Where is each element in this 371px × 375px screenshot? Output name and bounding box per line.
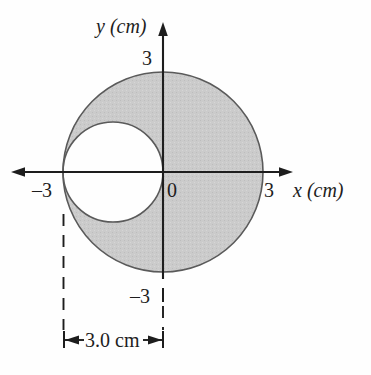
- y-axis-tick-label-3: 3: [142, 48, 152, 68]
- dimension-label: 3.0 cm: [85, 330, 139, 350]
- circle-with-hole-figure: y (cm) 3 –3 x (cm) 3 –3 0 3.0 cm: [0, 0, 371, 375]
- y-axis-label: y (cm): [96, 16, 147, 36]
- x-axis-tick-label-minus-3: –3: [32, 180, 52, 200]
- x-axis-label-text: x (cm): [293, 179, 344, 201]
- y-axis-label-text: y (cm): [96, 15, 147, 37]
- x-axis-tick-label-3: 3: [264, 180, 274, 200]
- y-axis-tick-label-minus-3: –3: [130, 286, 150, 306]
- x-axis-label: x (cm): [293, 180, 344, 200]
- origin-label: 0: [167, 180, 177, 200]
